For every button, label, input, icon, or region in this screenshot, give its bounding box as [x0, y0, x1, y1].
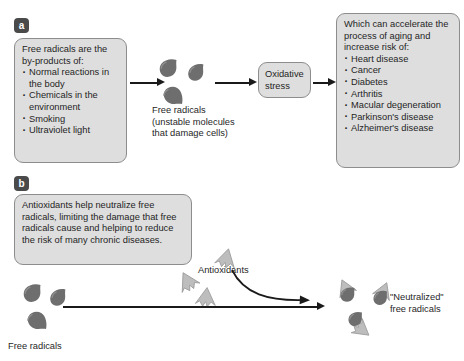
neutralized-caption: "Neutralized" free radicals: [390, 292, 462, 315]
free-radicals-caption-a: Free radicals (unstable molecules that d…: [152, 105, 257, 140]
list-item: Cancer: [344, 65, 452, 77]
arrow-sources-to-radicals: [130, 82, 159, 84]
sources-box-lead: Free radicals are the by-products of:: [22, 44, 119, 67]
list-item: Chemicals in the environment: [22, 90, 119, 113]
panel-label-b: b: [14, 176, 29, 191]
free-radical-molecule: [24, 309, 48, 331]
risks-box-lead: Which can accelerate the process of agin…: [344, 19, 452, 54]
panel-label-a: a: [14, 18, 29, 33]
list-item: Parkinson's disease: [344, 112, 452, 124]
free-radical-molecule: [22, 283, 44, 305]
free-radical-molecule: [158, 58, 180, 80]
list-item: Macular degeneration: [344, 100, 452, 112]
arrow-neutralization: [63, 306, 320, 308]
list-item: Heart disease: [344, 54, 452, 66]
list-item: Diabetes: [344, 77, 452, 89]
neutralized-radical-pair: [341, 311, 377, 345]
list-item: Alzheimer's disease: [344, 123, 452, 135]
list-item: Ultraviolet light: [22, 125, 119, 137]
arrow-head-icon: [249, 78, 257, 86]
neutralized-radical-pair: [330, 277, 364, 311]
risks-box: Which can accelerate the process of agin…: [336, 13, 460, 168]
arrow-head-icon: [317, 302, 325, 310]
arrow-head-icon: [328, 78, 336, 86]
list-item: Normal reactions in the body: [22, 67, 119, 90]
free-radical-molecule: [187, 63, 207, 84]
free-radicals-caption-b: Free radicals: [8, 341, 98, 353]
sources-box: Free radicals are the by-products of: No…: [14, 38, 127, 163]
risks-box-list: Heart disease Cancer Diabetes Arthritis …: [344, 54, 452, 135]
oxidative-stress-box: Oxidative stress: [258, 62, 311, 98]
curved-arrow-antioxidants: [230, 268, 322, 308]
arrow-radicals-to-oxidative: [215, 82, 251, 84]
figure-free-radicals-antioxidants: a Free radicals are the by-products of: …: [0, 0, 464, 361]
list-item: Arthritis: [344, 89, 452, 101]
sources-box-list: Normal reactions in the body Chemicals i…: [22, 67, 119, 137]
list-item: Smoking: [22, 114, 119, 126]
free-radical-molecule: [160, 84, 184, 106]
antioxidant-description-box: Antioxidants help neutralize free radica…: [14, 194, 192, 265]
